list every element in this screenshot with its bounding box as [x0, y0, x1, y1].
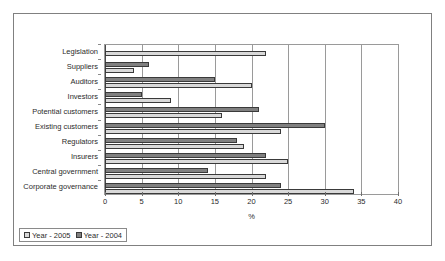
x-axis-tick-label: 30 [321, 197, 329, 206]
y-axis-tick [98, 150, 101, 151]
bar-group [105, 75, 398, 90]
legend-entry: Year - 2004 [76, 231, 123, 240]
x-axis-tick [252, 192, 253, 196]
legend-swatch-y2004 [76, 232, 82, 238]
y-axis-label: Legislation [62, 47, 98, 56]
y-axis-tick [98, 59, 101, 60]
legend-label: Year - 2005 [32, 231, 71, 240]
y-axis-label: Corporate governance [23, 182, 98, 191]
y-axis-label: Auditors [70, 77, 98, 86]
plot-area [104, 44, 399, 195]
y-axis-label: Suppliers [67, 62, 98, 71]
bar-group [105, 136, 398, 151]
bar-year-2005 [105, 51, 266, 56]
bar-year-2004 [105, 107, 259, 112]
y-axis-label: Regulators [62, 137, 98, 146]
bar-year-2004 [105, 77, 215, 82]
bar-year-2005 [105, 98, 171, 103]
x-axis-tick [215, 192, 216, 196]
x-axis-tick [288, 192, 289, 196]
x-axis-tick-label: 20 [247, 197, 255, 206]
y-axis-tick [98, 180, 101, 181]
bar-groups [105, 45, 398, 194]
bar-group [105, 121, 398, 136]
bar-year-2005 [105, 68, 134, 73]
y-axis-label: Central government [32, 167, 98, 176]
x-axis-tick-label: 0 [103, 197, 107, 206]
chart-legend: Year - 2005Year - 2004 [19, 228, 127, 242]
x-axis-tick [142, 192, 143, 196]
x-axis-tick [105, 192, 106, 196]
y-axis-tick [98, 44, 101, 45]
bar-year-2004 [105, 123, 325, 128]
bar-year-2005 [105, 174, 266, 179]
y-axis-category-labels: LegislationSuppliersAuditorsInvestorsPot… [14, 44, 101, 195]
y-axis-label: Insurers [71, 152, 98, 161]
bar-year-2005 [105, 144, 244, 149]
y-axis-label: Investors [68, 92, 98, 101]
x-axis-tick [361, 192, 362, 196]
x-axis-tick [325, 192, 326, 196]
x-axis-tick [398, 192, 399, 196]
y-axis-label: Potential customers [32, 107, 98, 116]
legend-swatch-y2005 [24, 232, 30, 238]
legend-label: Year - 2004 [84, 231, 123, 240]
bar-year-2005 [105, 83, 252, 88]
x-axis-tick-label: 35 [357, 197, 365, 206]
bar-year-2004 [105, 183, 281, 188]
bar-chart-figure: LegislationSuppliersAuditorsInvestorsPot… [0, 0, 445, 261]
bar-year-2004 [105, 62, 149, 67]
y-axis-tick [98, 165, 101, 166]
bar-group [105, 90, 398, 105]
y-axis-tick [98, 74, 101, 75]
bar-year-2004 [105, 92, 142, 97]
bar-group [105, 45, 398, 60]
bar-group [105, 105, 398, 120]
y-axis-tick [98, 89, 101, 90]
y-axis-tick [98, 104, 101, 105]
x-axis-title: % [104, 212, 399, 221]
bar-gap [105, 67, 398, 68]
x-axis-tick-label: 5 [140, 197, 144, 206]
bar-year-2004 [105, 153, 266, 158]
gridline-40 [398, 45, 399, 194]
bar-group [105, 166, 398, 181]
bar-year-2005 [105, 113, 222, 118]
bar-year-2004 [105, 138, 237, 143]
x-axis-tick-label: 10 [174, 197, 182, 206]
bar-year-2005 [105, 159, 288, 164]
bar-year-2005 [105, 129, 281, 134]
x-axis-tick [178, 192, 179, 196]
x-axis-tick-label: 15 [211, 197, 219, 206]
y-axis-label: Existing customers [35, 122, 98, 131]
bar-year-2004 [105, 168, 208, 173]
x-axis-tick-label: 40 [394, 197, 402, 206]
x-axis-tick-label: 25 [284, 197, 292, 206]
legend-entry: Year - 2005 [24, 231, 71, 240]
y-axis-tick [98, 135, 101, 136]
bar-group [105, 151, 398, 166]
bar-group [105, 60, 398, 75]
y-axis-tick [98, 120, 101, 121]
x-axis-tick-labels: 0510152025303540 [104, 197, 399, 209]
